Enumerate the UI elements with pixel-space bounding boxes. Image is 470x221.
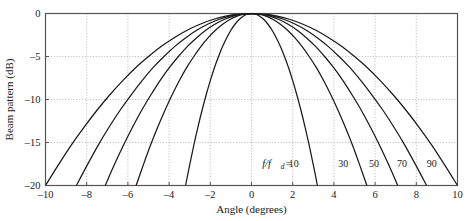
series-prefix-subscript: d	[281, 162, 285, 171]
x-tick-label: –2	[204, 189, 216, 200]
x-tick-label: –8	[80, 189, 92, 200]
x-tick-label: 2	[290, 189, 295, 200]
y-axis-title: Beam pattern (dB)	[3, 58, 16, 140]
x-axis-title: Angle (degrees)	[216, 203, 287, 216]
y-tick-label: 0	[35, 8, 40, 19]
x-tick-label: 6	[372, 189, 377, 200]
curve-label-90: 90	[427, 158, 437, 169]
curve-label-30: 30	[338, 158, 348, 169]
x-tick-label: –6	[122, 189, 134, 200]
chart-background	[0, 0, 470, 221]
x-tick-label: –4	[163, 189, 175, 200]
beam-pattern-chart: 1030507090 f/fd= –10–8–6–4–20246810 0–5–…	[0, 0, 470, 221]
curve-label-70: 70	[397, 158, 407, 169]
x-tick-label: 8	[414, 189, 419, 200]
x-tick-label: 10	[452, 189, 463, 200]
y-tick-label: –20	[24, 180, 41, 191]
x-tick-label: 4	[331, 189, 337, 200]
y-tick-label: –10	[24, 94, 41, 105]
y-tick-label: –5	[29, 51, 41, 62]
curve-label-50: 50	[369, 158, 379, 169]
series-prefix-equals: =	[286, 158, 292, 169]
x-tick-label: 0	[249, 189, 254, 200]
beam-pattern-figure: 1030507090 f/fd= –10–8–6–4–20246810 0–5–…	[0, 0, 470, 221]
y-tick-label: –15	[24, 137, 41, 148]
